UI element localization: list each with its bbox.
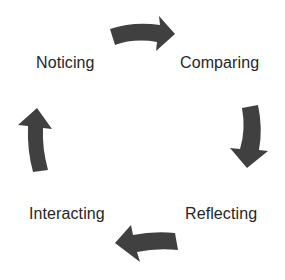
curved-arrow-up-icon bbox=[18, 108, 52, 172]
stage-label-interacting: Interacting bbox=[29, 206, 105, 222]
cycle-diagram: Noticing Comparing Reflecting Interactin… bbox=[0, 0, 285, 280]
stage-label-comparing: Comparing bbox=[180, 55, 259, 71]
curved-arrow-right-icon bbox=[110, 16, 175, 51]
curved-arrow-left-icon bbox=[115, 225, 178, 262]
stage-label-reflecting: Reflecting bbox=[185, 206, 257, 222]
curved-arrow-down-icon bbox=[230, 105, 268, 168]
cycle-arrows bbox=[0, 0, 285, 280]
stage-label-noticing: Noticing bbox=[36, 55, 95, 71]
